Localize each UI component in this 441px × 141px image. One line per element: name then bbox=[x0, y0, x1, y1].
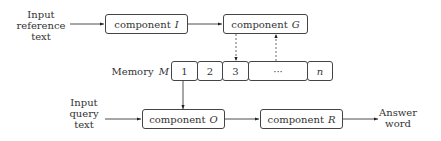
component-g: component G bbox=[223, 14, 308, 34]
label-line: text bbox=[10, 31, 72, 42]
component-label: component bbox=[268, 114, 324, 125]
label-line: text bbox=[62, 119, 106, 130]
component-o: component O bbox=[142, 109, 225, 129]
component-symbol: I bbox=[175, 19, 179, 30]
memory-cell-1: 1 bbox=[171, 61, 198, 81]
component-symbol: O bbox=[210, 114, 218, 125]
label-line: Input bbox=[62, 97, 106, 108]
memory-label: Memory M bbox=[105, 66, 169, 77]
memory-symbol: M bbox=[159, 66, 169, 77]
memory-label-text: Memory bbox=[111, 66, 153, 77]
label-line: query bbox=[62, 108, 106, 119]
answer-word-label: Answer word bbox=[378, 107, 418, 129]
label-line: Answer bbox=[378, 107, 418, 118]
memory-cell-2: 2 bbox=[197, 61, 223, 81]
input-query-text-label: Input query text bbox=[62, 97, 106, 130]
label-line: Input bbox=[10, 9, 72, 20]
input-reference-text-label: Input reference text bbox=[10, 9, 72, 42]
memory-cell-n-text: n bbox=[317, 66, 323, 77]
component-symbol: R bbox=[328, 114, 336, 125]
memory-cell-n: n bbox=[307, 61, 333, 81]
label-line: word bbox=[378, 118, 418, 129]
component-label: component bbox=[231, 19, 287, 30]
component-symbol: G bbox=[292, 19, 300, 30]
component-i: component I bbox=[105, 14, 188, 34]
memory-cell-3: 3 bbox=[222, 61, 249, 81]
component-r: component R bbox=[260, 109, 343, 129]
component-label: component bbox=[114, 19, 170, 30]
memory-cell-ellipsis: ··· bbox=[248, 61, 308, 81]
component-label: component bbox=[149, 114, 205, 125]
label-line: reference bbox=[10, 20, 72, 31]
